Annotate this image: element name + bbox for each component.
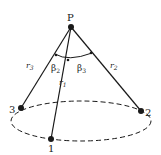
- arc-marker-left: [55, 54, 58, 57]
- label-r2: r2: [110, 61, 118, 71]
- arc-marker-right: [90, 52, 93, 55]
- label-2: 2: [145, 107, 151, 118]
- label-r3: r3: [26, 61, 34, 71]
- apex-point: [68, 24, 74, 30]
- base-ellipse: [11, 101, 151, 141]
- label-beta2: β2: [51, 63, 60, 74]
- label-1: 1: [48, 143, 54, 154]
- label-r1: r1: [59, 78, 67, 88]
- arc-marker-mid: [67, 59, 70, 62]
- label-3: 3: [9, 104, 15, 115]
- angle-arc: [55, 53, 92, 58]
- cone-diagram: P 1 2 3 r3 r2 r1 β2 β3: [0, 0, 161, 155]
- label-beta3: β3: [77, 63, 86, 74]
- point-1: [48, 136, 54, 142]
- point-3: [18, 105, 24, 111]
- point-2: [138, 108, 144, 114]
- label-P: P: [67, 12, 74, 23]
